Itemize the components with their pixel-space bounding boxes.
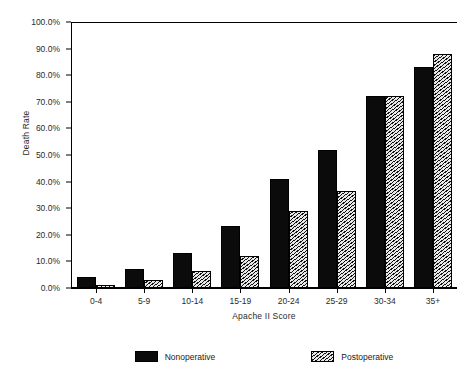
x-axis-tick-mark	[96, 288, 97, 293]
y-axis-tick-label: 20.0%	[8, 230, 60, 240]
y-axis-tick-label: 0.0%	[8, 283, 60, 293]
legend-label: Nonoperative	[165, 352, 216, 362]
y-axis-tick-label: 10.0%	[8, 256, 60, 266]
bar-postoperative-10-14	[192, 271, 211, 288]
x-axis-tick-label: 5-9	[120, 296, 168, 306]
bar-nonoperative-0-4	[77, 277, 96, 288]
x-axis-tick-cell	[361, 288, 409, 294]
x-axis-tick-label: 30-34	[361, 296, 409, 306]
x-axis-tick-mark	[144, 288, 145, 293]
y-axis-tick-label: 80.0%	[8, 70, 60, 80]
bar-group-0-4	[72, 22, 120, 288]
x-axis-tick-label: 15-19	[216, 296, 264, 306]
bar-postoperative-35plus	[433, 54, 452, 288]
x-axis-tick-mark	[433, 288, 434, 293]
bars-layer	[72, 22, 457, 288]
x-axis-tick-cell	[265, 288, 313, 294]
chart-legend: NonoperativePostoperative	[71, 351, 457, 362]
bar-nonoperative-25-29	[318, 150, 337, 288]
x-axis-tick-label: 10-14	[168, 296, 216, 306]
y-axis-tick-label: 50.0%	[8, 150, 60, 160]
x-axis-tick-label: 35+	[409, 296, 457, 306]
bar-group-25-29	[313, 22, 361, 288]
bar-group-35plus	[409, 22, 457, 288]
legend-swatch-icon	[135, 351, 158, 362]
y-axis-tick-label: 90.0%	[8, 44, 60, 54]
bar-nonoperative-5-9	[125, 269, 144, 288]
x-axis-tick-mark	[289, 288, 290, 293]
legend-swatch-icon	[311, 351, 334, 362]
legend-label: Postoperative	[341, 352, 393, 362]
bar-postoperative-25-29	[337, 191, 356, 288]
y-axis-tick-label: 60.0%	[8, 123, 60, 133]
bar-nonoperative-15-19	[221, 226, 240, 289]
legend-item-postoperative: Postoperative	[311, 351, 393, 362]
bar-postoperative-15-19	[240, 256, 259, 288]
bar-nonoperative-30-34	[366, 96, 385, 288]
x-axis-tick-cell	[120, 288, 168, 294]
x-axis-tick-labels: 0-45-910-1415-1920-2425-2930-3435+	[72, 296, 457, 306]
y-axis-tick-label: 70.0%	[8, 97, 60, 107]
bar-nonoperative-10-14	[173, 253, 192, 288]
x-axis-tick-label: 25-29	[313, 296, 361, 306]
x-axis-tick-cell	[313, 288, 361, 294]
x-axis-tick-cell	[168, 288, 216, 294]
chart-figure: Death Rate 100.0%90.0%80.0%70.0%60.0%50.…	[0, 0, 470, 384]
y-axis-tick-label: 40.0%	[8, 177, 60, 187]
x-axis-title: Apache II Score	[71, 311, 457, 321]
bar-postoperative-20-24	[289, 211, 308, 288]
bar-nonoperative-35plus	[414, 67, 433, 288]
x-axis-tick-mark	[385, 288, 386, 293]
x-axis-tick-cell	[409, 288, 457, 294]
bar-group-15-19	[216, 22, 264, 288]
x-axis-tick-mark	[240, 288, 241, 293]
x-axis-tick-cell	[72, 288, 120, 294]
x-axis-tick-mark	[192, 288, 193, 293]
x-axis-tick-marks	[72, 288, 457, 294]
bar-group-10-14	[168, 22, 216, 288]
bar-group-30-34	[361, 22, 409, 288]
legend-item-nonoperative: Nonoperative	[135, 351, 216, 362]
x-axis-tick-mark	[337, 288, 338, 293]
bar-group-20-24	[265, 22, 313, 288]
bar-nonoperative-20-24	[270, 179, 289, 288]
bar-group-5-9	[120, 22, 168, 288]
x-axis-tick-label: 0-4	[72, 296, 120, 306]
bar-postoperative-30-34	[385, 96, 404, 288]
x-axis-tick-cell	[216, 288, 264, 294]
y-axis-tick-label: 30.0%	[8, 203, 60, 213]
y-axis-tick-label: 100.0%	[8, 17, 60, 27]
y-axis-tick-labels: 100.0%90.0%80.0%70.0%60.0%50.0%40.0%30.0…	[10, 22, 64, 288]
x-axis-tick-label: 20-24	[265, 296, 313, 306]
bar-postoperative-5-9	[144, 280, 163, 288]
